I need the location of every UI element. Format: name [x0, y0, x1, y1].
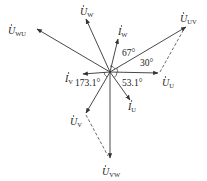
phasor-diagram: UWUUWIWUUVUUIUIVUVUVW 67°30°53.1°173.1° — [0, 0, 207, 181]
phasor-dot — [73, 115, 74, 116]
label-i-w: IW — [117, 26, 128, 38]
phasor-i-v — [83, 72, 110, 74]
phasor-arrows — [37, 19, 186, 158]
angle-label: 53.1° — [122, 78, 143, 88]
phasor-dot — [105, 165, 106, 166]
phasor-dot — [165, 76, 166, 77]
phasor-u-w — [86, 19, 110, 72]
label-i-v: IV — [64, 73, 73, 85]
angle-label: 30° — [140, 58, 154, 68]
phasor-u-wu — [37, 29, 110, 72]
label-u-v: UV — [70, 116, 82, 128]
label-u-u: UU — [162, 77, 174, 89]
phasor-labels: UWUUWIWUUVUUIUIVUVUVW — [8, 5, 197, 178]
phasor-dot — [11, 24, 12, 25]
phasor-dot — [83, 5, 84, 6]
phasor-dot — [183, 12, 184, 13]
angle-label: 67° — [122, 48, 136, 58]
label-u-uv: UUV — [180, 13, 197, 25]
phasor-dot — [131, 100, 132, 101]
label-u-vw: UVW — [102, 166, 121, 178]
dashed-line — [86, 115, 108, 156]
phasor-dot — [121, 25, 122, 26]
label-u-wu: UWU — [8, 25, 26, 37]
label-i-u: IU — [127, 101, 136, 113]
label-u-w: UW — [80, 6, 94, 18]
phasor-dot — [68, 72, 69, 73]
angle-label: 173.1° — [75, 78, 100, 88]
